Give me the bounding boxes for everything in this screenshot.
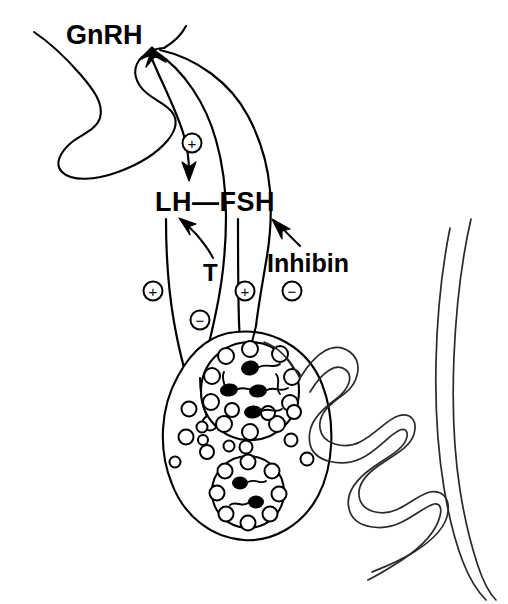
tubule-duct-inner [436, 228, 486, 600]
tubule-vesicle [284, 369, 300, 385]
plus-symbol-gnrh: + [188, 135, 197, 152]
tubule-vesicle [263, 507, 278, 522]
interstitial-vesicle [198, 435, 208, 445]
tubule-vesicle [241, 516, 256, 531]
hypothalamus-upper-lobe [164, 26, 186, 48]
sign-plus-gnrh-stimulation: + [183, 134, 202, 153]
tubule-vesicle [203, 394, 219, 410]
interstitial-vesicle [285, 434, 298, 447]
figure-container: GnRH LH—FSH T Inhibin [0, 0, 508, 604]
inhibin-to-gonadotropin-arrow [272, 219, 300, 246]
tubule-vesicle [272, 346, 288, 362]
tubule-vesicle [204, 368, 220, 384]
inhibin-arrowhead [272, 219, 290, 239]
tubule-vesicle [242, 424, 258, 440]
testosterone-arrow-shaft [186, 224, 213, 258]
interstitial-vesicle [182, 402, 197, 417]
sign-minus-testosterone-feedback: − [191, 311, 210, 330]
plus-symbol-left: + [149, 283, 158, 300]
sign-plus-right-gonadal: + [236, 282, 255, 301]
plus-symbol-right: + [241, 283, 250, 300]
minus-symbol-inhibin: − [288, 283, 297, 300]
interstitial-vesicle [170, 457, 181, 468]
interstitial-vesicle [197, 422, 208, 433]
tubule-vesicle [210, 486, 225, 501]
minus-symbol-testosterone: − [196, 312, 205, 329]
caption-partial [0, 590, 508, 604]
tubule-vesicle [218, 348, 234, 364]
interstitial-vesicle [240, 441, 253, 454]
tubule-vesicle [242, 341, 258, 357]
tubule-vesicle [216, 416, 232, 432]
interstitial-vesicle [287, 405, 301, 419]
interstitial-vesicle [200, 445, 214, 459]
tubule-vesicle [265, 464, 280, 479]
tubule-vesicle [272, 487, 287, 502]
tubule-vesicle [225, 403, 239, 417]
tubule-vesicle [261, 406, 275, 420]
testosterone-to-gonadotropin-arrow [179, 218, 213, 258]
sign-plus-left-gonadal: + [144, 282, 163, 301]
tubule-vesicle [218, 464, 233, 479]
axis-diagram: GnRH LH—FSH T Inhibin [0, 0, 508, 604]
testosterone-label: T [203, 259, 218, 286]
tubule-vesicle [241, 455, 256, 470]
sign-minus-inhibin-feedback: − [283, 282, 302, 301]
gonadal-cell-group [163, 326, 332, 540]
gnrh-label: GnRH [66, 20, 143, 50]
interstitial-vesicle [301, 453, 314, 466]
tubule-vesicle [219, 507, 234, 522]
lh-fsh-label: LH—FSH [155, 187, 275, 217]
inhibin-label: Inhibin [267, 249, 349, 277]
interstitial-vesicle [179, 430, 194, 445]
tubule-duct-outer [453, 219, 496, 600]
interstitial-vesicle [224, 441, 235, 452]
